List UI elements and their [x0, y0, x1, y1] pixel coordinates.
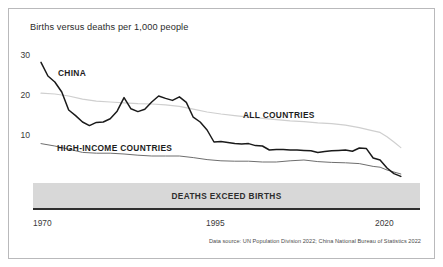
x-axis-tick-2020: 2020 — [375, 218, 394, 228]
x-axis-tick-1995: 1995 — [206, 218, 225, 228]
series-label-high-income: HIGH-INCOME COUNTRIES — [57, 143, 172, 153]
y-axis-tick-30: 30 — [8, 50, 30, 60]
series-label-all-countries: ALL COUNTRIES — [243, 110, 315, 120]
series-label-china: CHINA — [58, 68, 86, 78]
series-line-china — [41, 62, 401, 176]
chart-source-note: Data source: UN Population Division 2022… — [209, 238, 421, 244]
x-axis-tick-1970: 1970 — [33, 218, 52, 228]
y-axis-tick-10: 10 — [8, 130, 30, 140]
chart-figure: Births versus deaths per 1,000 people DE… — [0, 0, 443, 267]
series-line-all-countries — [41, 93, 401, 147]
y-axis-tick-20: 20 — [8, 90, 30, 100]
